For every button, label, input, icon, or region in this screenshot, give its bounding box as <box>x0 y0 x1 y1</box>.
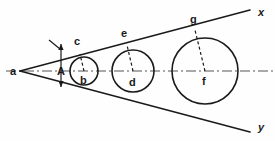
angle-leader-tick <box>49 40 60 49</box>
lower-ray-label-y: y <box>257 121 265 133</box>
geometry-diagram: a x y A b c d e f g <box>0 0 275 141</box>
upper-ray-label-x: x <box>257 6 265 18</box>
angle-label-A: A <box>57 65 65 77</box>
circle-2-tangent-label: e <box>121 27 127 39</box>
angle-arrow-head-bottom <box>58 81 63 87</box>
apex-label: a <box>10 65 17 77</box>
circle-1-center-label: b <box>80 74 87 86</box>
diagram-canvas: a x y A b c d e f g <box>0 0 275 141</box>
circle-1-tangent-label: c <box>74 35 80 47</box>
circle-2-center-label: d <box>129 76 136 88</box>
circle-2-radius-dashed <box>127 45 133 71</box>
circle-3-tangent-label: g <box>190 13 197 25</box>
circle-3-radius-dashed <box>195 30 205 71</box>
circle-3-center-label: f <box>202 75 206 87</box>
